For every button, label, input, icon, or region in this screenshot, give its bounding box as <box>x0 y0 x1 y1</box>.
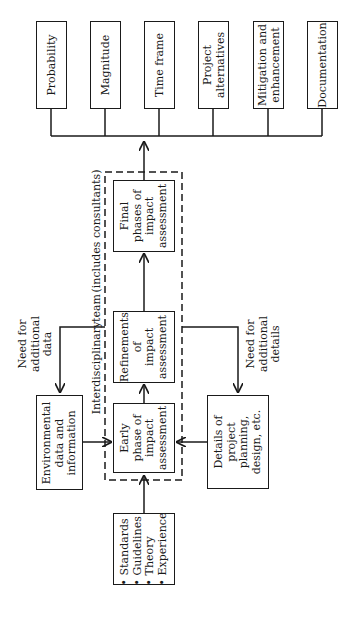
early-line4: assessment <box>157 406 170 470</box>
project-alternatives-line1: Project <box>201 32 214 98</box>
details-line4: design, etc. <box>251 410 264 474</box>
output-documentation: Documentation <box>307 21 338 109</box>
refinements-line4: assessment <box>157 312 170 382</box>
refinements-box: Refinements of impact assessment <box>113 311 175 383</box>
bullet-icon: • <box>143 579 156 586</box>
input-experience-label: Experience <box>156 513 169 576</box>
input-experience: • Experience <box>157 513 170 586</box>
output-mitigation: Mitigation and enhancement <box>253 21 284 109</box>
input-standards-label: Standards <box>118 518 131 575</box>
early-phase-box: Early phase of impact assessment <box>113 403 175 473</box>
details-line3: planning, <box>238 410 251 474</box>
mitigation-line2: enhancement <box>269 24 282 106</box>
team-label-text1: Interdisciplinary <box>91 322 104 415</box>
env-line1: Environmental <box>41 401 54 483</box>
project-details-box: Details of project planning, design, etc… <box>207 395 269 489</box>
output-magnitude: Magnitude <box>90 21 121 109</box>
bullet-icon: • <box>131 579 144 586</box>
env-line3: information <box>66 401 79 483</box>
team-label-text3: (includes consultants) <box>91 170 104 293</box>
final-phases-box: Final phases of impact assessment <box>113 180 175 252</box>
early-line1: Early <box>119 406 132 470</box>
feedback-details-label: Need for additional details <box>242 300 286 388</box>
magnitude-label: Magnitude <box>99 35 112 96</box>
team-label-part1: Interdisciplinary <box>88 334 106 402</box>
final-line3: impact <box>144 184 157 248</box>
probability-label: Probability <box>45 34 58 95</box>
team-label-part3: (includes consultants) <box>88 176 106 286</box>
early-line3: impact <box>144 406 157 470</box>
mitigation-line1: Mitigation and <box>256 24 269 106</box>
team-label-part2: team <box>88 292 106 324</box>
refinements-line1: Refinements <box>119 312 132 382</box>
refinements-line3: impact <box>144 312 157 382</box>
feedback-details-line3: details <box>270 316 283 372</box>
environmental-data-box: Environmental data and information <box>36 395 83 490</box>
bullet-icon: • <box>118 579 131 586</box>
documentation-label: Documentation <box>316 22 329 107</box>
feedback-data-label: Need for additional data <box>14 300 58 388</box>
final-line4: assessment <box>157 184 170 248</box>
feedback-data-line1: Need for <box>17 316 30 372</box>
output-project-alternatives: Project alternatives <box>198 21 229 109</box>
project-alternatives-line2: alternatives <box>214 32 227 98</box>
team-label-text2: team <box>91 294 104 322</box>
env-line2: data and <box>53 401 66 483</box>
bullet-icon: • <box>156 579 169 586</box>
feedback-details-line1: Need for <box>245 316 258 372</box>
input-theory-label: Theory <box>143 536 156 575</box>
time-frame-label: Time frame <box>153 33 166 97</box>
details-line1: Details of <box>213 410 226 474</box>
output-time-frame: Time frame <box>144 21 175 109</box>
final-line1: Final <box>119 184 132 248</box>
output-probability: Probability <box>36 21 67 109</box>
feedback-data-line3: data <box>42 316 55 372</box>
input-guidelines-label: Guidelines <box>131 516 144 575</box>
inputs-box: • Standards • Guidelines • Theory • Expe… <box>113 513 175 585</box>
